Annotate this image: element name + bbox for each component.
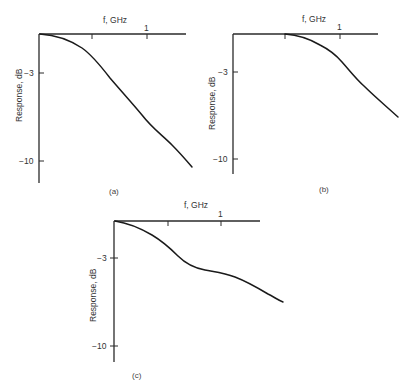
x-axis-label: f, GHz bbox=[103, 15, 127, 25]
y-tick-label-minus10: −10 bbox=[19, 156, 34, 166]
panel-label: (a) bbox=[109, 187, 119, 196]
y-tick-label-minus10: −10 bbox=[92, 341, 107, 351]
response-curve bbox=[40, 34, 192, 167]
response-curve bbox=[285, 34, 398, 117]
y-tick-label-minus10: −10 bbox=[213, 154, 228, 164]
panel-c: f, GHz 1 −3 −10 Response, dB (c) bbox=[88, 200, 283, 380]
y-axis-label: Response, dB bbox=[88, 268, 98, 322]
panel-b: f, GHz 1 −3 −10 Response, dB (b) bbox=[207, 14, 398, 194]
x-tick-label-1: 1 bbox=[144, 23, 149, 33]
x-tick-label-1: 1 bbox=[337, 22, 342, 32]
y-tick-label-minus3: −3 bbox=[97, 253, 107, 263]
y-axis-label: Response, dB bbox=[14, 68, 24, 122]
x-tick-label-1: 1 bbox=[218, 209, 223, 219]
panel-a: f, GHz 1 −3 −10 Response, dB (a) bbox=[14, 15, 192, 196]
figure: f, GHz 1 −3 −10 Response, dB (a) f, GHz … bbox=[0, 0, 415, 384]
x-axis-label: f, GHz bbox=[184, 200, 208, 210]
panel-label: (b) bbox=[319, 185, 329, 194]
panel-label: (c) bbox=[132, 371, 142, 380]
x-axis-label: f, GHz bbox=[302, 14, 326, 24]
y-tick-label-minus3: −3 bbox=[218, 67, 228, 77]
y-axis-label: Response, dB bbox=[207, 76, 217, 130]
response-curve bbox=[115, 221, 283, 302]
y-tick-label-minus3: −3 bbox=[24, 68, 34, 78]
